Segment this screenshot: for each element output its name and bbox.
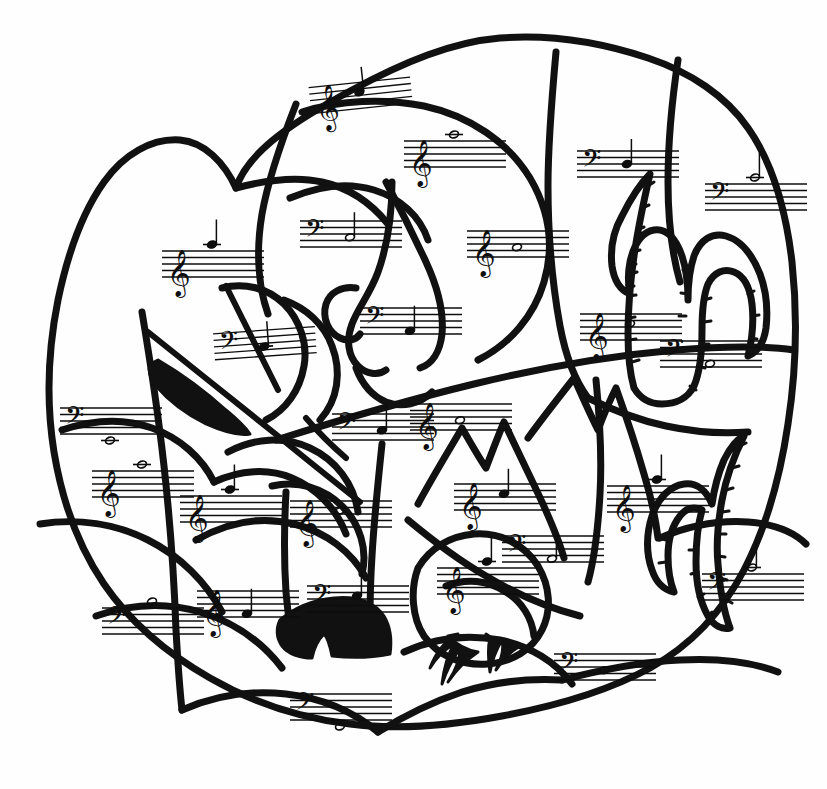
treble-clef-icon: 𝄞 [97,469,121,518]
treble-clef-icon: 𝄞 [442,566,466,615]
music-staff: 𝄢 [658,325,776,385]
bass-clef-icon: 𝄢 [337,407,356,442]
music-staff: 𝄞 [402,125,520,185]
music-staff: 𝄢 [298,205,416,265]
music-staff: 𝄢 [358,292,476,352]
music-staff: 𝄢 [210,310,332,378]
treble-clef-icon: 𝄞 [167,249,191,298]
treble-clef-icon: 𝄞 [202,589,226,638]
bass-clef-icon: 𝄢 [365,301,384,336]
music-staff: 𝄢 [703,168,821,228]
note-stem [361,67,364,91]
whole-note-glyph [335,722,346,731]
bass-clef-icon: 𝄢 [107,601,126,636]
worksheet-page: Music Note Coloring Worksheet [0,0,827,789]
bass-clef-icon: 𝄢 [582,144,601,179]
music-staff: 𝄢 [288,678,406,738]
treble-clef-icon: 𝄞 [313,83,342,134]
treble-clef-icon: 𝄞 [459,482,483,531]
music-staff: 𝄞 [160,235,278,295]
music-staff: 𝄢 [305,570,423,630]
bass-clef-icon: 𝄢 [665,334,684,369]
treble-clef-icon: 𝄞 [185,494,209,543]
music-staff: 𝄢 [700,558,818,618]
note-stem [267,321,269,345]
bass-clef-icon: 𝄢 [218,325,239,361]
music-staff: 𝄞 [452,468,570,528]
treble-clef-icon: 𝄞 [472,229,496,278]
music-staff: 𝄞 [408,388,526,448]
music-staff: 𝄞 [465,215,583,275]
treble-clef-icon: 𝄞 [409,139,433,188]
bass-clef-icon: 𝄢 [559,647,578,682]
bass-clef-icon: 𝄢 [312,579,331,614]
music-staff: 𝄞 [288,485,406,545]
bass-clef-icon: 𝄢 [305,214,324,249]
music-staff: 𝄢 [58,392,176,452]
music-staff: 𝄞 [195,575,313,635]
quarter-note-glyph [622,139,633,169]
bass-clef-icon: 𝄢 [710,177,729,212]
treble-clef-icon: 𝄞 [415,402,439,451]
music-staff: 𝄞 [305,60,429,132]
treble-clef-icon: 𝄞 [612,484,636,533]
music-staff: 𝄢 [552,638,670,698]
music-staff: 𝄢 [575,135,693,195]
whole-note-glyph [147,597,158,606]
bass-clef-icon: 𝄢 [707,567,726,602]
bass-clef-icon: 𝄢 [295,687,314,722]
music-staff: 𝄞 [178,480,296,540]
treble-clef-icon: 𝄞 [295,499,319,548]
music-staff: 𝄞 [435,552,553,612]
bass-clef-icon: 𝄢 [65,401,84,436]
music-staff: 𝄞 [605,470,723,530]
treble-clef-icon: 𝄞 [585,312,609,361]
